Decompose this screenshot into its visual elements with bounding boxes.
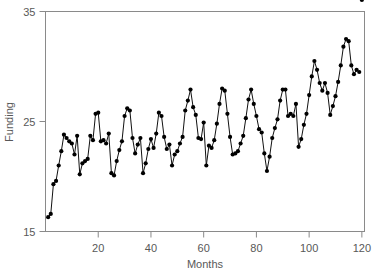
series-point (249, 88, 253, 92)
y-axis-tick-labels: 152535 (23, 6, 35, 238)
series-point (104, 141, 108, 145)
series-point (347, 39, 351, 43)
series-point (238, 141, 242, 145)
series-point (209, 146, 213, 150)
series-point (333, 94, 337, 98)
x-tick-label: 80 (250, 242, 262, 254)
series-point (199, 137, 203, 141)
series-point (215, 122, 219, 126)
series-point (149, 137, 153, 141)
series-point (154, 132, 158, 136)
series-point (312, 59, 316, 63)
series-point (328, 113, 332, 117)
y-tick-label: 25 (23, 116, 35, 128)
series-point (78, 172, 82, 176)
series-point (260, 130, 264, 134)
series-point (296, 145, 300, 149)
series-point (136, 143, 140, 147)
x-tick-label: 60 (198, 242, 210, 254)
series-point (323, 81, 327, 85)
series-point (167, 143, 171, 147)
series-point (331, 104, 335, 108)
series-point (307, 93, 311, 97)
series-point (341, 45, 345, 49)
series-point (225, 112, 229, 116)
series-point (144, 161, 148, 165)
series-point (257, 127, 261, 131)
x-tick-label: 20 (92, 242, 104, 254)
series-point (194, 113, 198, 117)
series-point (278, 99, 282, 103)
series-point (128, 108, 132, 112)
series-point (96, 111, 100, 115)
series-point (117, 148, 121, 152)
series-point (294, 102, 298, 106)
x-axis-title: Months (187, 258, 224, 270)
series-point (188, 88, 192, 92)
series-point (349, 63, 353, 67)
series-point (315, 68, 319, 72)
series-point (178, 141, 182, 145)
series-point (173, 152, 177, 156)
series-point (175, 149, 179, 153)
y-axis-ticks (40, 12, 46, 232)
series-point (88, 134, 92, 138)
series-point (217, 102, 221, 106)
series-point (325, 91, 329, 95)
series-point (252, 102, 256, 106)
series-point (310, 74, 314, 78)
series-point (64, 136, 68, 140)
series-point (162, 135, 166, 139)
series-point (151, 146, 155, 150)
series-point (270, 136, 274, 140)
series-point (244, 116, 248, 120)
series-point (165, 147, 169, 151)
series-point (112, 173, 116, 177)
series-point (283, 88, 287, 92)
series-point (254, 114, 258, 118)
series-point (141, 171, 145, 175)
chart-figure: 152535 20406080100120 Months Funding (0, 0, 375, 274)
series-point (241, 134, 245, 138)
series-point (204, 163, 208, 167)
series-point (146, 147, 150, 151)
series-point (51, 182, 55, 186)
series-line-funding (48, 39, 359, 217)
series-point (262, 151, 266, 155)
x-axis-ticks (98, 232, 362, 238)
series-point (75, 134, 79, 138)
series-point (246, 97, 250, 101)
series-point (62, 133, 66, 137)
y-axis-title: Funding (3, 102, 15, 142)
series-point (318, 81, 322, 85)
series-point (265, 169, 269, 173)
series-point (320, 89, 324, 93)
series-points-funding (46, 0, 364, 219)
series-point (273, 126, 277, 130)
series-point (133, 151, 137, 155)
series-point (186, 99, 190, 103)
series-point (228, 135, 232, 139)
series-point (302, 123, 306, 127)
x-tick-label: 40 (145, 242, 157, 254)
series-point (46, 215, 50, 219)
series-point (57, 163, 61, 167)
series-point (275, 117, 279, 121)
series-point (352, 72, 356, 76)
series-point (170, 163, 174, 167)
series-point (107, 132, 111, 136)
series-point (236, 149, 240, 153)
series-point (304, 112, 308, 116)
series-point (130, 136, 134, 140)
series-point (180, 135, 184, 139)
series-point (159, 114, 163, 118)
series-point (299, 137, 303, 141)
series-point (212, 138, 216, 142)
series-point (54, 179, 58, 183)
series-point (86, 157, 90, 161)
series-point (59, 149, 63, 153)
series-point (101, 138, 105, 142)
series-point (357, 70, 361, 74)
series-point (138, 136, 142, 140)
y-tick-label: 15 (23, 226, 35, 238)
